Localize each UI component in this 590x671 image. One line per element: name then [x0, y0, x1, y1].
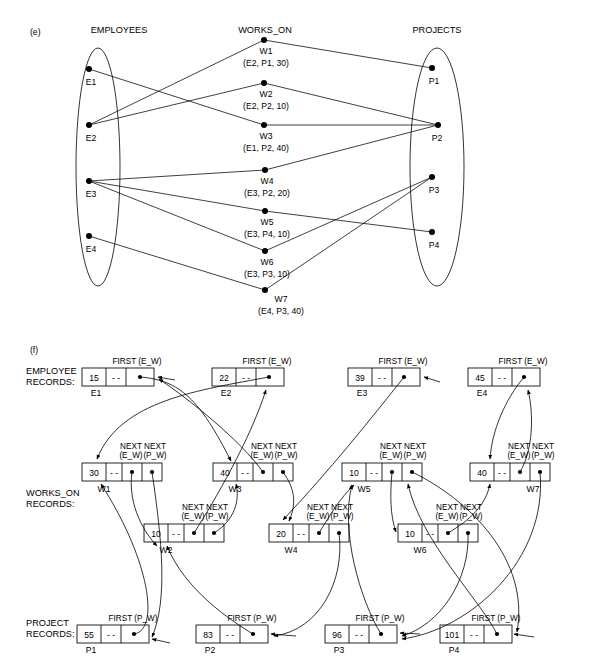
- workson-records-label-line1: WORKS_ON: [26, 488, 80, 498]
- record-value: 96: [332, 630, 342, 640]
- record-value: 10: [405, 529, 415, 539]
- workson-node-label: W6: [261, 257, 274, 267]
- first-pw-caption: FIRST (P_W): [109, 614, 158, 623]
- pointer-arrow-into-p1: [152, 639, 170, 643]
- record-name: E2: [221, 388, 232, 398]
- employee-record-E4: 45 - - FIRST (E_W) E4: [468, 357, 548, 398]
- record-null-marker: - -: [112, 373, 120, 383]
- workson-node-tuple: (E1, P2, 40): [243, 143, 289, 153]
- pointer-arrow-into-e3: [424, 377, 440, 382]
- record-value: 22: [219, 373, 229, 383]
- record-value: 10: [349, 468, 359, 478]
- workson-node-tuple: (E4, P3, 40): [258, 306, 304, 316]
- workson-record-W5: 10 - - NEXT (E_W) NEXT (P_W) W5: [342, 442, 427, 494]
- part-f-label: (f): [30, 345, 38, 355]
- workson-record-W7: 40 - - NEXT (E_W) NEXT (P_W) W7: [470, 442, 555, 494]
- workson-node-label: W2: [260, 89, 273, 99]
- pointer-arrow-into-p4: [514, 634, 534, 637]
- next-ew-caption-line1: NEXT: [508, 442, 530, 451]
- record-value: 55: [84, 630, 94, 640]
- record-value: 40: [477, 468, 487, 478]
- record-name: P3: [334, 645, 345, 655]
- next-pw-caption-line2: (P_W): [205, 512, 228, 521]
- pointer-link-w6-next-pw: [402, 533, 468, 636]
- project-node-label: P2: [432, 133, 443, 143]
- project-node-dot: [429, 65, 435, 71]
- record-name: E3: [357, 388, 368, 398]
- employee-node-dot: [86, 233, 92, 239]
- workson-node-dot: [261, 122, 267, 128]
- record-null-marker: - -: [470, 630, 478, 640]
- next-ew-caption-line2: (E_W): [435, 512, 458, 521]
- part-f-group: (f) EMPLOYEE RECORDS: WORKS_ON RECORDS: …: [26, 345, 555, 655]
- workson-node-tuple: (E3, P4, 10): [244, 229, 290, 239]
- employee-record-E3: 39 - - FIRST (E_W) E3: [348, 357, 428, 398]
- next-pw-caption-line1: NEXT: [331, 503, 353, 512]
- next-pw-caption-line2: (P_W): [143, 451, 166, 460]
- first-pw-caption: FIRST (P_W): [228, 614, 277, 623]
- next-ew-caption-line2: (E_W): [379, 451, 402, 460]
- record-name: P1: [86, 645, 97, 655]
- employee-records-label-line2: RECORDS:: [26, 377, 75, 387]
- pointer-arrow-into-p3: [400, 633, 420, 634]
- workson-node-dot: [262, 208, 268, 214]
- employee-node-label: E3: [86, 189, 97, 199]
- project-record-P2: 83 - - FIRST (P_W) P2: [196, 614, 277, 655]
- next-ew-caption-line1: NEXT: [380, 442, 402, 451]
- workson-project-edges: [264, 40, 438, 290]
- workson-node-dot: [262, 167, 268, 173]
- record-name: W6: [414, 545, 427, 555]
- workson-node-dot: [262, 287, 268, 293]
- next-ew-caption-line1: NEXT: [307, 503, 329, 512]
- employee-node-dot: [86, 122, 92, 128]
- pointer-arrow-into-e1: [158, 377, 175, 380]
- project-node-label: P4: [429, 240, 440, 250]
- record-null-marker: - -: [355, 630, 363, 640]
- record-value: 45: [475, 373, 485, 383]
- record-null-marker: - -: [370, 468, 378, 478]
- employee-records-label-line1: EMPLOYEE: [26, 366, 77, 376]
- workson-node-tuple: (E3, P2, 20): [244, 188, 290, 198]
- database-linked-structures-diagram: (e) EMPLOYEES WORKS_ON PROJECTS: [0, 0, 590, 671]
- record-null-marker: - -: [226, 630, 234, 640]
- pointer-link-p3-first-pw: [348, 485, 381, 634]
- employees-ellipse: [76, 48, 120, 286]
- first-pw-caption: FIRST (P_W): [356, 614, 405, 623]
- workson-record-W4: 20 - - NEXT (E_W) NEXT (P_W) W4: [269, 503, 354, 555]
- project-records-label-line1: PROJECT: [26, 618, 69, 628]
- record-name: E1: [91, 388, 102, 398]
- workson-nodes: W1 (E2, P1, 30) W2 (E2, P2, 10) W3 (E1, …: [243, 37, 304, 316]
- employee-record-E2: 22 - - FIRST (E_W) E2: [212, 357, 292, 398]
- workson-node-label: W7: [275, 294, 288, 304]
- next-ew-caption-line1: NEXT: [182, 503, 204, 512]
- next-pw-caption-line2: (P_W): [403, 451, 426, 460]
- employee-workson-edges: [89, 40, 265, 290]
- pointer-link-w5-next-pw: [412, 472, 519, 632]
- record-value: 83: [203, 630, 213, 640]
- record-null-marker: - -: [378, 373, 386, 383]
- record-name: P2: [205, 645, 216, 655]
- next-pw-caption-line1: NEXT: [275, 442, 297, 451]
- part-e-label: (e): [30, 27, 41, 37]
- record-value: 30: [89, 468, 99, 478]
- next-pw-caption-line1: NEXT: [532, 442, 554, 451]
- workson-node-label: W4: [261, 176, 274, 186]
- next-pw-caption-line1: NEXT: [404, 442, 426, 451]
- record-value: 101: [445, 630, 460, 640]
- project-record-P1: 55 - - FIRST (P_W) P1: [77, 614, 158, 655]
- figure-canvas: (e) EMPLOYEES WORKS_ON PROJECTS: [0, 0, 590, 671]
- first-pw-caption: FIRST (P_W): [472, 614, 521, 623]
- workson-node-tuple: (E2, P1, 30): [243, 58, 289, 68]
- next-pw-caption-line1: NEXT: [144, 442, 166, 451]
- record-name: W7: [527, 484, 540, 494]
- next-pw-caption-line2: (P_W): [531, 451, 554, 460]
- next-ew-caption-line1: NEXT: [436, 503, 458, 512]
- next-ew-caption-line2: (E_W): [119, 451, 142, 460]
- next-ew-caption-line2: (E_W): [250, 451, 273, 460]
- first-ew-caption: FIRST (E_W): [379, 357, 428, 366]
- record-name: E4: [477, 388, 488, 398]
- projects-header: PROJECTS: [412, 25, 461, 35]
- first-ew-caption: FIRST (E_W): [499, 357, 548, 366]
- record-null-marker: - -: [241, 468, 249, 478]
- record-name: W4: [285, 545, 298, 555]
